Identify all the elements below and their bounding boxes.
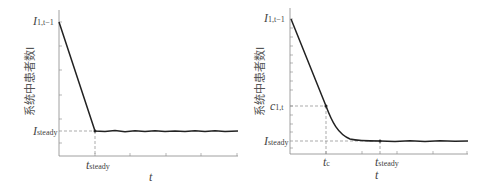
right-y-top-label: I1,t−1: [264, 11, 285, 26]
right-chart: [290, 8, 468, 154]
left-x-axis-label: t: [149, 170, 152, 185]
left-y-axis-label: 系统中患者数I: [21, 47, 37, 116]
right-x-c-label: tc: [323, 155, 330, 170]
right-x-axis-label: t: [375, 168, 378, 183]
left-y-ticks: [59, 22, 62, 143]
left-x-ticks: [95, 153, 237, 156]
left-y-steady-label: Isteady: [33, 124, 57, 139]
right-curve: [291, 19, 468, 142]
right-y-ticks: [290, 19, 293, 148]
right-y-steady-label: Isteady: [264, 134, 288, 149]
right-y-axis-label: 系统中患者数I: [251, 47, 267, 116]
left-x-steady-label: tsteady: [86, 158, 110, 173]
right-x-steady-label: tsteady: [375, 155, 399, 170]
right-x-ticks: [326, 151, 467, 154]
charts-canvas: [0, 0, 485, 190]
right-y-c-label: c1,t: [270, 99, 284, 114]
left-y-top-label: I1,t−1: [33, 14, 54, 29]
left-curve: [59, 22, 238, 132]
left-chart: [59, 10, 238, 156]
